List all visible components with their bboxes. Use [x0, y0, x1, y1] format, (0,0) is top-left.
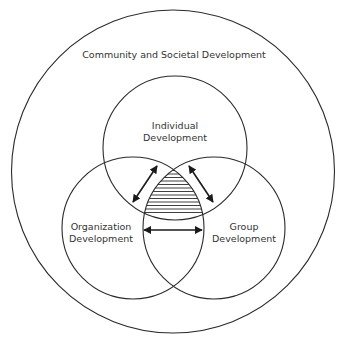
organization-label-line2: Development	[69, 233, 133, 244]
individual-label-line2: Development	[143, 132, 207, 143]
arrow-individual-group	[189, 166, 213, 202]
individual-label-line1: Individual	[152, 120, 198, 131]
group-label-line2: Development	[212, 233, 276, 244]
center-hatch	[120, 160, 230, 213]
organization-label-line1: Organization	[71, 221, 132, 232]
arrow-organization-individual	[133, 166, 157, 202]
group-label-line1: Group	[230, 221, 259, 232]
venn-diagram: Community and Societal Development	[0, 0, 340, 342]
circle-group	[143, 157, 285, 299]
outer-label: Community and Societal Development	[82, 49, 266, 60]
